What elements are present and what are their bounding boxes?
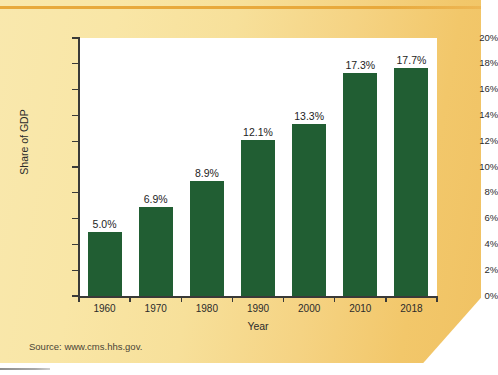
y-axis-line [78,37,80,297]
y-axis-title: Share of GDP [18,92,30,192]
source-note: Source: www.cms.hhs.gov. [29,341,142,352]
y-axis-tick [72,89,78,90]
y-axis-tick-label: 4% [452,238,498,249]
y-axis-tick-label: 20% [452,32,498,43]
y-axis-tick-label: 12% [452,135,498,146]
x-axis-tick [334,296,335,302]
x-axis-tick [436,296,437,302]
y-axis-tick [72,192,78,193]
x-axis-tick [129,296,130,302]
bar [139,207,173,296]
x-axis-tick-label: 1980 [181,303,233,314]
x-axis-tick-label: 2010 [334,303,386,314]
bar-value-label: 6.9% [126,193,186,205]
y-axis-tick [72,141,78,142]
y-axis-tick-label: 16% [452,83,498,94]
y-axis-tick [72,244,78,245]
bar-value-label: 17.7% [381,54,441,66]
x-axis-tick [181,296,182,302]
x-axis-tick [232,296,233,302]
x-axis-title: Year [79,320,437,332]
bar [343,73,377,296]
bar-value-label: 12.1% [228,126,288,138]
bar-value-label: 13.3% [279,110,339,122]
y-axis-tick-label: 6% [452,212,498,223]
y-axis-tick-label: 0% [452,290,498,301]
x-axis-tick-label: 1970 [130,303,182,314]
x-axis-line [78,296,438,298]
y-axis-tick [72,115,78,116]
bar-value-label: 8.9% [177,167,237,179]
y-axis-tick-label: 2% [452,264,498,275]
y-axis-tick [72,270,78,271]
bar [190,181,224,296]
bottom-divider-rule [0,368,50,370]
x-axis-tick-label: 1960 [79,303,131,314]
x-axis-tick [78,296,79,302]
y-axis-tick [72,63,78,64]
bar [394,68,428,296]
bar-value-label: 5.0% [75,218,135,230]
y-axis-tick-label: 14% [452,109,498,120]
y-axis-tick [72,166,78,167]
x-axis-tick-label: 2018 [385,303,437,314]
chart-figure: 0%2%4%6%8%10%12%14%16%18%20% 5.0%6.9%8.9… [0,0,498,375]
x-axis-tick-label: 2000 [283,303,335,314]
x-axis-tick-label: 1990 [232,303,284,314]
page-top-rule [0,6,481,9]
y-axis-tick-label: 8% [452,186,498,197]
y-axis-tick [72,37,78,38]
y-axis-tick-label: 10% [452,161,498,172]
x-axis-tick [283,296,284,302]
x-axis-tick [385,296,386,302]
bar [88,232,122,297]
y-axis-tick [72,295,78,296]
bar [241,140,275,296]
bar [292,124,326,296]
y-axis-tick-label: 18% [452,57,498,68]
